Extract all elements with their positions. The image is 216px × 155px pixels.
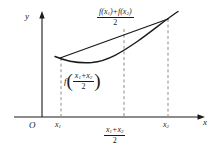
xmid-num-a-subscript: 1 <box>110 129 112 134</box>
xmid-num-b-subscript: 2 <box>121 129 123 134</box>
tick-label-x1: x1 <box>55 121 61 129</box>
midpoint-fraction: x1+x2 2 <box>73 72 94 91</box>
tick-label-x2: x2 <box>163 121 169 129</box>
num-f1-subscript: 1 <box>107 11 109 16</box>
x-axis <box>14 114 205 119</box>
mid-num-a-subscript: 1 <box>78 75 80 80</box>
open-paren: ( <box>67 70 73 91</box>
tick-x2-subscript: 2 <box>167 124 169 129</box>
x-axis-midpoint-fraction: x1+x2 2 <box>104 126 125 145</box>
x-axis-midpoint-numerator: x1+x2 <box>104 126 125 136</box>
convexity-diagram: y x O x1 x2 f(x1)+f(x2) 2 f( x1+x2 2 ) x… <box>0 0 216 155</box>
chord-midpoint-label: f(x1)+f(x2) 2 <box>97 8 134 27</box>
midpoint-denominator: 2 <box>73 82 94 91</box>
origin-label: O <box>29 121 36 130</box>
midpoint-numerator: x1+x2 <box>73 72 94 82</box>
x-axis-midpoint-label: x1+x2 2 <box>104 126 125 145</box>
mid-num-plus: +x <box>81 71 90 80</box>
chord-midpoint-numerator: f(x1)+f(x2) <box>97 8 134 18</box>
tick-x1-subscript: 1 <box>59 124 61 129</box>
close-paren: ) <box>94 70 100 91</box>
num-mid: )+f(x <box>110 7 127 16</box>
x-axis-midpoint-denominator: 2 <box>104 136 125 145</box>
y-axis-label: y <box>25 12 29 21</box>
chord-midpoint-denominator: 2 <box>97 18 134 27</box>
chord-midpoint-fraction: f(x1)+f(x2) 2 <box>97 8 134 27</box>
y-axis <box>39 11 44 117</box>
num-f2-subscript: 2 <box>126 11 128 16</box>
mid-num-b-subscript: 2 <box>90 75 92 80</box>
xmid-num-plus: +x <box>112 125 121 134</box>
x-axis-label: x <box>203 118 207 127</box>
num-end: ) <box>129 7 132 16</box>
function-of-midpoint-label: f( x1+x2 2 ) <box>64 72 101 91</box>
